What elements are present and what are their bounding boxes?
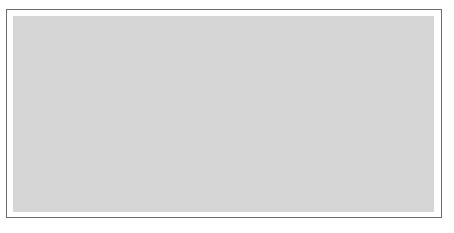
figure-drawing	[0, 0, 454, 233]
